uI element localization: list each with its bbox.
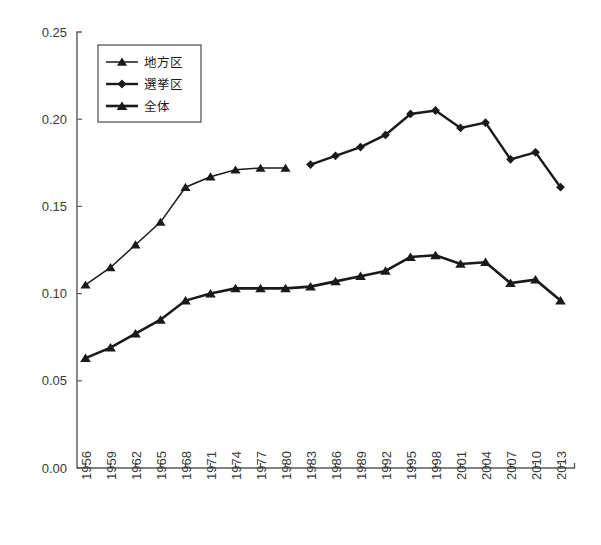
x-tick-label: 1998 bbox=[429, 451, 444, 480]
chart-canvas: 0.250.200.150.100.050.00 195619591962196… bbox=[0, 0, 601, 545]
y-tick-label: 0.15 bbox=[42, 199, 67, 214]
y-tick-label: 0.25 bbox=[42, 25, 67, 40]
x-tick-label: 1959 bbox=[104, 451, 119, 480]
line-chart: 0.250.200.150.100.050.00 195619591962196… bbox=[0, 0, 601, 545]
x-tick-label: 1956 bbox=[79, 451, 94, 480]
x-tick-label: 1995 bbox=[404, 451, 419, 480]
legend-label: 全体 bbox=[144, 99, 170, 114]
x-tick-label: 1962 bbox=[129, 451, 144, 480]
x-tick-label: 1974 bbox=[229, 451, 244, 480]
x-tick-label: 2013 bbox=[554, 451, 569, 480]
x-tick-label: 2010 bbox=[529, 451, 544, 480]
x-tick-label: 1971 bbox=[204, 451, 219, 480]
x-tick-label: 1992 bbox=[379, 451, 394, 480]
x-tick-label: 2007 bbox=[504, 451, 519, 480]
x-tick-label: 2001 bbox=[454, 451, 469, 480]
x-tick-label: 2004 bbox=[479, 451, 494, 480]
x-tick-label: 1989 bbox=[354, 451, 369, 480]
y-tick-label: 0.00 bbox=[42, 461, 67, 476]
legend-label: 地方区 bbox=[144, 55, 183, 70]
x-tick-label: 1980 bbox=[279, 451, 294, 480]
x-tick-label: 1965 bbox=[154, 451, 169, 480]
x-tick-label: 1977 bbox=[254, 451, 269, 480]
x-tick-label: 1986 bbox=[329, 451, 344, 480]
chart-legend: 地方区選挙区全体 bbox=[98, 45, 201, 122]
y-tick-label: 0.20 bbox=[42, 112, 67, 127]
y-tick-label: 0.05 bbox=[42, 373, 67, 388]
y-tick-label: 0.10 bbox=[42, 286, 67, 301]
x-tick-label: 1968 bbox=[179, 451, 194, 480]
x-tick-label: 1983 bbox=[304, 451, 319, 480]
legend-label: 選挙区 bbox=[144, 77, 183, 92]
